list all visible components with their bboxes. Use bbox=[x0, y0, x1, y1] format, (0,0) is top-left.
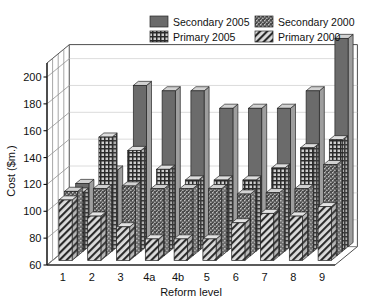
chart-figure: 20018016014012010080601234a4b56789Reform… bbox=[0, 0, 383, 300]
y-tick-label: 160 bbox=[23, 125, 41, 137]
x-tick-label: 1 bbox=[60, 271, 66, 283]
y-tick-label: 140 bbox=[23, 152, 41, 164]
x-tick-label: 8 bbox=[290, 271, 296, 283]
x-tick-label: 5 bbox=[204, 271, 210, 283]
bar-front bbox=[261, 213, 274, 260]
legend-swatch-diagonal-hatch bbox=[255, 31, 273, 42]
x-tick-label: 3 bbox=[117, 271, 123, 283]
bar-side bbox=[141, 146, 146, 251]
legend-label: Secondary 2005 bbox=[173, 16, 250, 28]
bar-primary-2000-1 bbox=[59, 196, 77, 261]
bar-front bbox=[117, 227, 130, 261]
bar-side bbox=[107, 185, 112, 256]
legend-label: Secondary 2000 bbox=[278, 16, 355, 28]
x-tick-label: 2 bbox=[89, 271, 95, 283]
bar-front bbox=[203, 239, 216, 260]
bar-front bbox=[174, 239, 187, 260]
bar-primary-2000-5 bbox=[203, 235, 221, 261]
bar-side bbox=[279, 189, 284, 256]
bar-side bbox=[170, 165, 175, 251]
bar-front bbox=[59, 200, 72, 260]
x-axis-title: Reform level bbox=[160, 286, 222, 298]
bar-side bbox=[348, 34, 353, 246]
bar-side bbox=[343, 136, 348, 252]
bar-chart-3d: 20018016014012010080601234a4b56789Reform… bbox=[0, 0, 383, 300]
x-tick-label: 4b bbox=[172, 271, 184, 283]
legend-swatch-grid-crosshatch bbox=[150, 31, 168, 42]
bar-side bbox=[101, 212, 106, 260]
bar-side bbox=[72, 196, 77, 261]
x-tick-label: 9 bbox=[319, 271, 325, 283]
bar-front bbox=[289, 216, 302, 260]
bar-side bbox=[274, 209, 279, 260]
bar-primary-2000-6 bbox=[232, 219, 250, 261]
bar-side bbox=[245, 219, 250, 261]
bar-side bbox=[222, 185, 227, 256]
bar-primary-2000-2 bbox=[88, 212, 106, 260]
y-tick-label: 180 bbox=[23, 98, 41, 110]
y-tick-label: 100 bbox=[23, 205, 41, 217]
bar-side bbox=[331, 203, 336, 261]
legend-label: Primary 2005 bbox=[173, 31, 236, 43]
legend-swatch-solid-dark bbox=[150, 16, 168, 27]
x-tick-label: 7 bbox=[261, 271, 267, 283]
legend-swatch-speckle bbox=[255, 16, 273, 27]
bar-side bbox=[130, 223, 135, 261]
legend-label: Primary 2000 bbox=[278, 31, 341, 43]
y-tick-label: 200 bbox=[23, 71, 41, 83]
y-tick-label: 80 bbox=[29, 232, 41, 244]
x-tick-label: 4a bbox=[143, 271, 156, 283]
x-tick-label: 6 bbox=[233, 271, 239, 283]
bar-side bbox=[303, 212, 308, 260]
bar-front bbox=[88, 216, 101, 260]
bar-primary-2000-7 bbox=[261, 209, 279, 260]
bar-front bbox=[145, 239, 158, 260]
y-tick-label: 60 bbox=[29, 259, 41, 271]
bar-front bbox=[232, 223, 245, 261]
bar-side bbox=[337, 160, 342, 255]
bar-primary-2000-3 bbox=[117, 223, 135, 261]
bar-primary-2000-4a bbox=[145, 235, 163, 261]
y-tick-label: 120 bbox=[23, 178, 41, 190]
bar-side bbox=[193, 185, 198, 256]
bar-primary-2000-4b bbox=[174, 235, 192, 261]
bar-side bbox=[308, 185, 313, 256]
bar-side bbox=[135, 182, 140, 256]
y-axis-title: Cost ($m.) bbox=[5, 145, 17, 196]
bar-primary-2000-8 bbox=[289, 212, 307, 260]
bar-side bbox=[164, 185, 169, 256]
bar-side bbox=[251, 190, 256, 256]
bar-primary-2000-9 bbox=[318, 203, 336, 261]
bar-side bbox=[78, 187, 83, 256]
bar-front bbox=[318, 207, 331, 261]
